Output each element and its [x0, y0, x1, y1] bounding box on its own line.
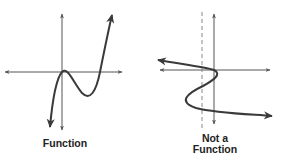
function-label-text: Function	[43, 137, 87, 149]
not-function-graph	[158, 12, 272, 128]
not-function-label-line2: Function	[180, 144, 250, 155]
function-label: Function	[30, 138, 100, 149]
function-curve	[50, 15, 112, 127]
not-function-curve	[158, 60, 272, 116]
not-function-label: Not a Function	[180, 133, 250, 155]
function-graph	[5, 14, 122, 130]
